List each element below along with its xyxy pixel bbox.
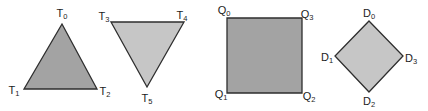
vertex-label-t5: T5 xyxy=(142,93,153,104)
vertex-label-base: D xyxy=(321,51,329,63)
vertex-label-base: T xyxy=(57,7,64,19)
vertex-label-q2: Q2 xyxy=(303,91,316,102)
triangle-up-shape xyxy=(24,24,97,89)
vertex-label-subscript: 4 xyxy=(183,14,187,23)
vertex-label-base: Q xyxy=(215,88,224,100)
square-shape xyxy=(227,18,302,93)
vertex-label-d2: D2 xyxy=(363,96,375,107)
vertex-label-d3: D3 xyxy=(405,53,417,64)
vertex-label-subscript: 0 xyxy=(371,12,375,21)
vertex-label-subscript: 1 xyxy=(329,56,333,65)
vertex-label-base: T xyxy=(9,84,16,96)
vertex-label-subscript: 1 xyxy=(223,93,227,102)
vertex-label-base: T xyxy=(99,10,106,22)
vertex-label-subscript: 3 xyxy=(413,57,417,66)
vertex-label-subscript: 3 xyxy=(105,15,109,24)
vertex-label-q3: Q3 xyxy=(301,9,314,20)
vertex-label-t2: T2 xyxy=(100,86,111,97)
vertex-label-t4: T4 xyxy=(177,10,188,21)
vertex-label-d0: D0 xyxy=(363,8,375,19)
vertex-label-subscript: 0 xyxy=(63,12,67,21)
vertex-label-subscript: 3 xyxy=(309,13,313,22)
vertex-label-subscript: 2 xyxy=(106,90,110,99)
vertex-label-base: D xyxy=(405,52,413,64)
vertex-label-subscript: 5 xyxy=(148,97,152,106)
vertex-label-q1: Q1 xyxy=(215,89,228,100)
vertex-label-subscript: 0 xyxy=(226,9,230,18)
vertex-label-d1: D1 xyxy=(321,52,333,63)
diamond-shape xyxy=(335,21,403,92)
vertex-label-base: Q xyxy=(218,4,227,16)
vertex-labeling-diagram: T0T1T2T3T4T5Q0Q3Q1Q2D0D1D3D2 xyxy=(0,0,428,111)
vertex-label-base: D xyxy=(363,7,371,19)
vertex-label-base: T xyxy=(177,9,184,21)
triangle-down-shape xyxy=(111,22,184,87)
vertex-label-base: D xyxy=(363,95,371,107)
vertex-label-base: T xyxy=(100,85,107,97)
vertex-label-t3: T3 xyxy=(99,11,110,22)
vertex-label-subscript: 2 xyxy=(371,100,375,109)
vertex-label-subscript: 2 xyxy=(311,95,315,104)
vertex-label-base: Q xyxy=(303,90,312,102)
vertex-label-subscript: 1 xyxy=(15,89,19,98)
vertex-label-base: T xyxy=(142,92,149,104)
vertex-label-base: Q xyxy=(301,8,310,20)
vertex-label-q0: Q0 xyxy=(218,5,231,16)
vertex-label-t1: T1 xyxy=(9,85,20,96)
vertex-label-t0: T0 xyxy=(57,8,68,19)
